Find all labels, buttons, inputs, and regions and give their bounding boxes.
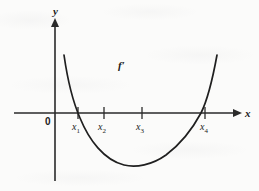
tick-label-x1: x1	[72, 122, 80, 135]
tick-label-x3: x3	[136, 122, 144, 135]
tick-label-x4-sub: 4	[204, 127, 208, 135]
x-axis-label: x	[245, 108, 251, 119]
curve-f-prime	[64, 55, 217, 166]
figure-container: y x 0 f′ x1 x2 x3 x4	[0, 0, 259, 191]
origin-label: 0	[45, 117, 51, 127]
tick-label-x2: x2	[98, 122, 106, 135]
y-axis-arrowhead	[51, 18, 59, 27]
tick-label-x3-sub: 3	[140, 127, 144, 135]
tick-label-x4: x4	[200, 122, 208, 135]
tick-label-x1-sub: 1	[76, 127, 80, 135]
y-axis-label: y	[53, 6, 58, 17]
tick-label-x2-sub: 2	[102, 127, 106, 135]
x-axis-arrowhead	[233, 109, 242, 117]
graph-canvas	[0, 0, 259, 191]
curve-label-f-prime: f′	[118, 60, 125, 71]
